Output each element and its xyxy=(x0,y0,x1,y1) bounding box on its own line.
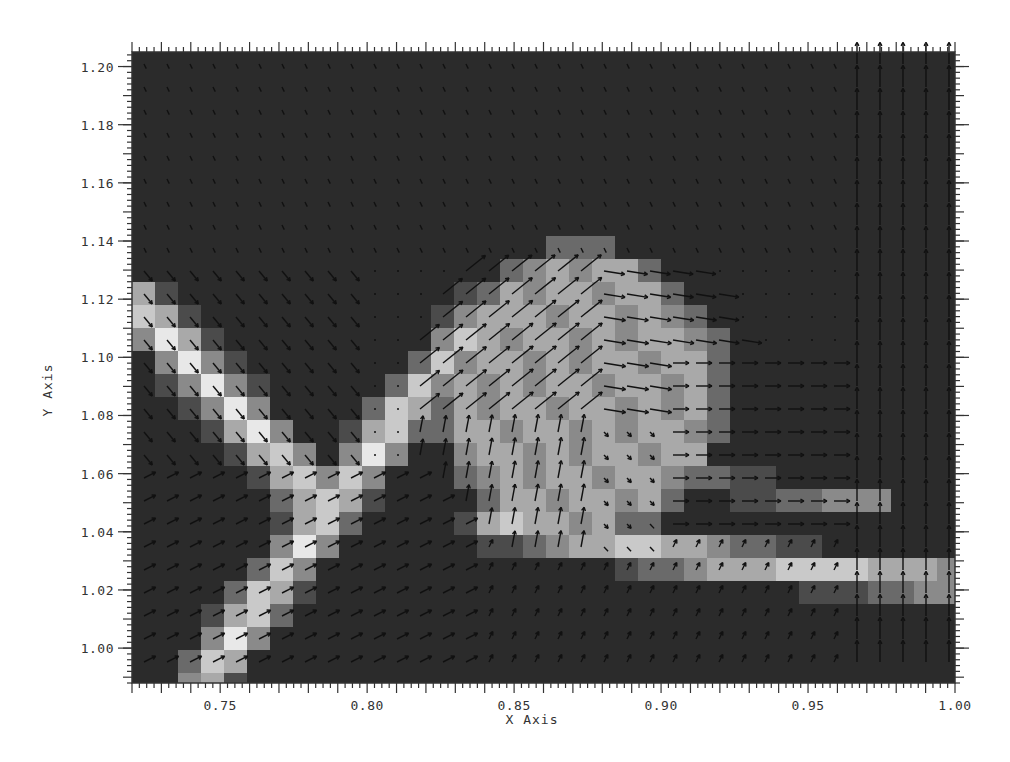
vector-field-chart: 0.750.800.850.900.951.00 1.001.021.041.0… xyxy=(0,0,1010,762)
y-tick-label: 1.04 xyxy=(81,525,114,540)
x-tick-label: 0.85 xyxy=(497,698,530,713)
y-tick-label: 1.18 xyxy=(81,118,114,133)
y-tick-label: 1.02 xyxy=(81,583,114,598)
x-tick-label: 0.80 xyxy=(350,698,383,713)
y-tick-label: 1.14 xyxy=(81,234,114,249)
y-tick-label: 1.10 xyxy=(81,350,114,365)
y-axis-tick-labels: 1.001.021.041.061.081.101.121.141.161.18… xyxy=(81,60,114,657)
y-tick-label: 1.20 xyxy=(81,60,114,75)
x-tick-label: 0.90 xyxy=(644,698,677,713)
y-tick-label: 1.06 xyxy=(81,467,114,482)
x-axis-title: X Axis xyxy=(506,712,559,727)
y-tick-label: 1.16 xyxy=(81,176,114,191)
y-tick-label: 1.08 xyxy=(81,408,114,423)
scalar-field-cells xyxy=(132,52,955,683)
y-axis-title: Y Axis xyxy=(40,364,55,417)
x-axis-tick-labels: 0.750.800.850.900.951.00 xyxy=(204,698,972,713)
y-tick-label: 1.12 xyxy=(81,292,114,307)
x-tick-label: 1.00 xyxy=(938,698,971,713)
x-tick-label: 0.75 xyxy=(204,698,237,713)
x-tick-label: 0.95 xyxy=(791,698,824,713)
y-tick-label: 1.00 xyxy=(81,641,114,656)
